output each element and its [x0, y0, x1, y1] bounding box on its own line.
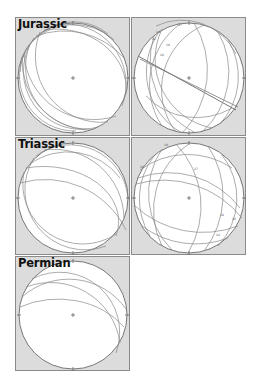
panel-title: Jurassic — [18, 18, 67, 31]
svg-text:24: 24 — [216, 233, 220, 237]
stereonet-jurassic — [16, 18, 131, 137]
svg-text:20: 20 — [140, 165, 144, 169]
svg-text:20: 20 — [232, 217, 236, 221]
svg-text:27: 27 — [178, 23, 182, 27]
panel-jurassic-lineations: 142218 2720 — [131, 17, 246, 136]
stereonet-jurassic-lineations: 142218 2720 — [132, 18, 247, 137]
stereonet-permian — [16, 257, 131, 372]
svg-text:10: 10 — [164, 143, 168, 147]
svg-text:14: 14 — [156, 30, 160, 34]
panel-jurassic: Jurassic — [15, 17, 130, 136]
svg-text:18: 18 — [166, 43, 170, 47]
panel-permian: Permian — [15, 256, 130, 371]
panel-triassic: Triassic — [15, 137, 130, 255]
stereonet-triassic — [16, 138, 131, 256]
panel-title: Permian — [18, 257, 70, 270]
svg-text:22: 22 — [152, 37, 156, 41]
svg-text:20: 20 — [160, 53, 164, 57]
stereonet-triassic-lineations: 102720 182024 — [132, 138, 247, 256]
svg-text:27: 27 — [194, 167, 198, 171]
panel-triassic-lineations: 102720 182024 — [131, 137, 246, 255]
panel-title: Triassic — [18, 138, 65, 151]
svg-text:18: 18 — [220, 213, 224, 217]
